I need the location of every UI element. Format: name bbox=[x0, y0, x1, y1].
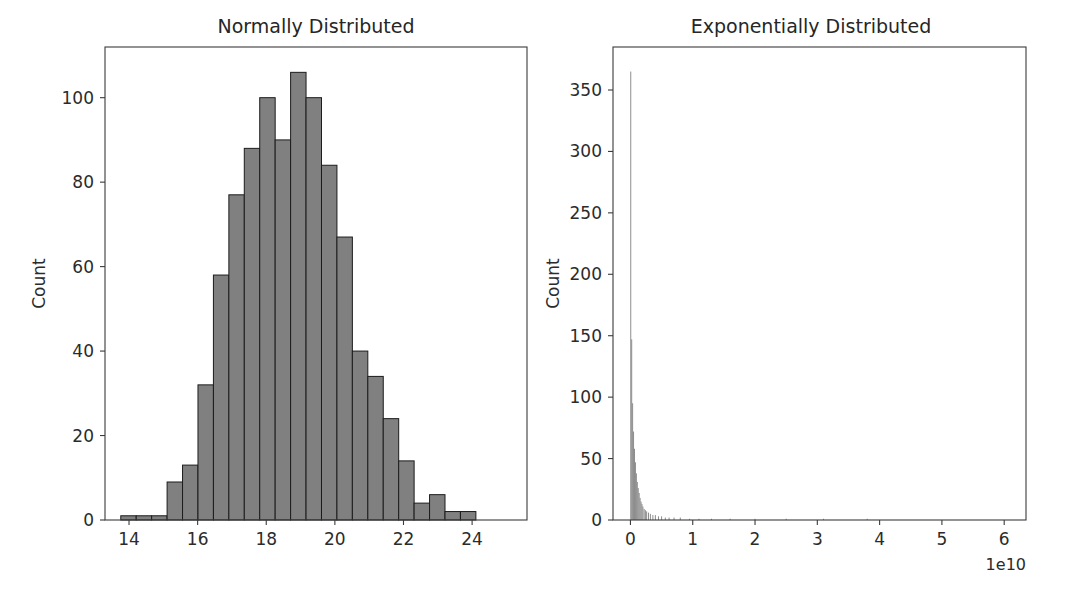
histogram-bar bbox=[652, 515, 653, 520]
histogram-bar bbox=[368, 376, 383, 520]
x-tick-label: 0 bbox=[625, 529, 636, 549]
plot-frame bbox=[613, 47, 1026, 520]
x-tick-label: 1 bbox=[687, 529, 698, 549]
normal-plot-body: 141618202224020406080100Count bbox=[29, 47, 527, 549]
histogram-bar bbox=[635, 462, 636, 520]
y-tick-label: 200 bbox=[570, 264, 602, 284]
histogram-bar bbox=[658, 516, 659, 520]
histogram-bar bbox=[633, 432, 634, 520]
histogram-bar bbox=[637, 482, 638, 520]
y-tick-label: 300 bbox=[570, 141, 602, 161]
normal-histogram-panel: Normally Distributed 1416182022240204060… bbox=[0, 0, 540, 606]
x-tick-label: 5 bbox=[936, 529, 947, 549]
histogram-bar bbox=[661, 516, 662, 520]
histogram-bar bbox=[640, 498, 641, 520]
x-tick-label: 18 bbox=[255, 529, 277, 549]
exponential-plot-title: Exponentially Distributed bbox=[691, 15, 932, 37]
x-tick-label: 14 bbox=[118, 529, 140, 549]
y-tick-label: 0 bbox=[83, 510, 94, 530]
histogram-bar bbox=[630, 72, 631, 520]
histogram-bar bbox=[460, 512, 475, 520]
histogram-bar bbox=[631, 339, 632, 520]
y-tick-label: 250 bbox=[570, 203, 602, 223]
histogram-bar bbox=[306, 98, 321, 520]
normal-histogram-svg: Normally Distributed 1416182022240204060… bbox=[0, 0, 540, 606]
histogram-bar bbox=[650, 514, 651, 520]
histogram-bar bbox=[275, 140, 290, 520]
y-tick-label: 150 bbox=[570, 326, 602, 346]
histogram-bar bbox=[383, 419, 398, 520]
exponential-plot-body: 0123456050100150200250300350Count1e10 bbox=[543, 47, 1026, 574]
histogram-bar bbox=[646, 511, 647, 520]
histogram-bar bbox=[445, 512, 460, 520]
x-tick-label: 16 bbox=[187, 529, 209, 549]
histogram-bar bbox=[244, 148, 259, 520]
x-tick-label: 2 bbox=[750, 529, 761, 549]
x-tick-label: 20 bbox=[324, 529, 346, 549]
histogram-bar bbox=[641, 502, 642, 520]
histogram-bar bbox=[638, 488, 639, 520]
x-tick-label: 4 bbox=[874, 529, 885, 549]
histogram-bar bbox=[648, 513, 649, 520]
histogram-bar bbox=[430, 495, 445, 520]
y-tick-label: 0 bbox=[591, 510, 602, 530]
histogram-bar bbox=[152, 516, 167, 520]
y-tick-label: 40 bbox=[72, 341, 94, 361]
histogram-bar bbox=[229, 195, 244, 520]
x-tick-label: 6 bbox=[999, 529, 1010, 549]
x-tick-label: 24 bbox=[461, 529, 483, 549]
exponential-histogram-panel: Exponentially Distributed 01234560501001… bbox=[540, 0, 1067, 606]
x-tick-label: 22 bbox=[393, 529, 415, 549]
x-tick-label: 3 bbox=[812, 529, 823, 549]
y-axis-label: Count bbox=[29, 258, 49, 309]
normal-plot-title: Normally Distributed bbox=[218, 15, 415, 37]
histogram-bar bbox=[321, 165, 336, 520]
histogram-bar bbox=[167, 482, 182, 520]
histogram-bar bbox=[414, 503, 429, 520]
histogram-bar bbox=[352, 351, 367, 520]
histogram-bar bbox=[636, 473, 637, 520]
y-tick-label: 350 bbox=[570, 80, 602, 100]
histogram-bar bbox=[136, 516, 151, 520]
y-tick-label: 100 bbox=[570, 387, 602, 407]
histogram-bar bbox=[260, 98, 275, 520]
y-tick-label: 100 bbox=[62, 88, 94, 108]
figure-canvas: Normally Distributed 1416182022240204060… bbox=[0, 0, 1067, 606]
histogram-bar bbox=[644, 509, 645, 520]
histogram-bar bbox=[632, 403, 633, 520]
exponential-histogram-svg: Exponentially Distributed 01234560501001… bbox=[540, 0, 1067, 606]
x-axis-offset-label: 1e10 bbox=[986, 555, 1026, 574]
histogram-bar bbox=[645, 510, 646, 520]
histogram-bar bbox=[337, 237, 352, 520]
histogram-bar bbox=[642, 506, 643, 520]
histogram-bar bbox=[121, 516, 136, 520]
histogram-bar bbox=[634, 449, 635, 520]
y-tick-label: 60 bbox=[72, 257, 94, 277]
histogram-bar bbox=[213, 275, 228, 520]
histogram-bar bbox=[399, 461, 414, 520]
y-axis-label: Count bbox=[543, 258, 563, 309]
histogram-bar bbox=[198, 385, 213, 520]
histogram-bar bbox=[639, 493, 640, 520]
histogram-bar bbox=[183, 465, 198, 520]
y-tick-label: 80 bbox=[72, 172, 94, 192]
y-tick-label: 50 bbox=[580, 449, 602, 469]
histogram-bar bbox=[655, 515, 656, 520]
y-tick-label: 20 bbox=[72, 426, 94, 446]
histogram-bar bbox=[291, 72, 306, 520]
histogram-bar bbox=[641, 504, 642, 520]
